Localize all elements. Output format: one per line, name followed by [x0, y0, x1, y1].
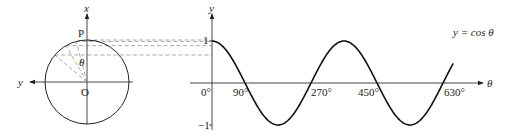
cosine-graph: y θ 1 −1 0° 90° 270° 450° 630° y = cos θ	[190, 2, 494, 131]
unit-circle-diagram: x y P O θ	[17, 2, 133, 124]
point-p-label: P	[78, 27, 84, 39]
graph-y-axis-label: y	[208, 2, 214, 14]
y-tick-label-minus-1: −1	[198, 119, 210, 131]
graph-theta-axis-label: θ	[487, 77, 493, 89]
cosine-projection-diagram: x y P O θ y θ 1 −1 0° 90° 270° 450° 630°…	[0, 0, 509, 138]
circle-y-axis-label: y	[17, 76, 23, 88]
x-tick-label-90: 90°	[233, 86, 248, 98]
curve-label: y = cos θ	[452, 26, 494, 38]
circle-x-axis-label: x	[83, 2, 89, 14]
x-tick-label-0: 0°	[201, 86, 211, 98]
origin-label: O	[81, 86, 89, 98]
x-tick-label-450: 450°	[358, 86, 379, 98]
x-tick-label-630: 630°	[444, 86, 465, 98]
x-tick-label-270: 270°	[311, 86, 332, 98]
angle-theta-label: θ	[79, 56, 85, 68]
projection-lines	[55, 40, 212, 55]
y-tick-label-1: 1	[203, 34, 209, 46]
